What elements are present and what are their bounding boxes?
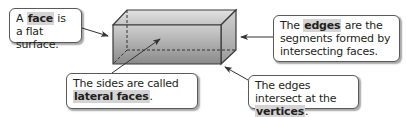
callout-edges-pre: The bbox=[280, 19, 303, 32]
callout-face-pre: A bbox=[16, 12, 27, 25]
callout-lateral-post: . bbox=[150, 90, 153, 103]
term-vertices: vertices bbox=[255, 105, 305, 117]
callout-vertices-pre: The edges intersect at the bbox=[255, 79, 336, 105]
prism-front-face bbox=[113, 25, 221, 64]
callout-face: A face is a flat surface. bbox=[9, 8, 82, 43]
term-face: face bbox=[27, 12, 54, 25]
term-lateral-faces: lateral faces bbox=[73, 90, 150, 103]
prism-top-face bbox=[113, 10, 236, 25]
callout-edges: The edges are the segments formed by int… bbox=[273, 15, 400, 62]
rectangular-prism bbox=[113, 10, 236, 64]
term-edges: edges bbox=[303, 19, 341, 32]
arrow-vertices bbox=[225, 67, 248, 80]
callout-lateral-pre: The sides are called bbox=[73, 77, 179, 90]
callout-lateral-faces: The sides are called lateral faces. bbox=[66, 73, 198, 109]
arrow-face bbox=[82, 28, 108, 36]
callout-vertices: The edges intersect at the vertices. bbox=[248, 75, 359, 109]
callout-vertices-post: . bbox=[305, 105, 308, 117]
